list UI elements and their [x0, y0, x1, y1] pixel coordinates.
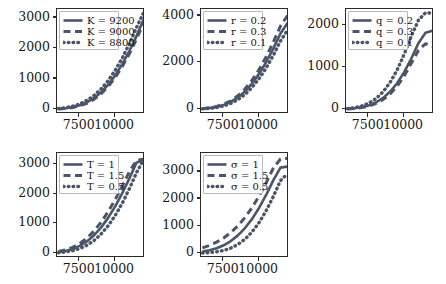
legend-line-swatch-icon: [207, 181, 227, 192]
legend-label: σ = 1: [231, 159, 259, 170]
x-tick-mark: [258, 257, 259, 261]
y-tick-mark: [197, 225, 201, 226]
y-tick-label: 1000: [144, 219, 194, 232]
legend-line-swatch-icon: [207, 159, 227, 170]
legend-item: σ = 1: [207, 159, 258, 170]
subplot-5: 0100020003000750010000σ = 1σ = 1.5σ = 0.…: [0, 0, 446, 284]
legend-item: σ = 1.5: [207, 170, 258, 181]
x-tick-label: 10000: [228, 263, 288, 276]
legend-line-swatch-icon: [207, 170, 227, 181]
legend: σ = 1σ = 1.5σ = 0.5: [203, 155, 263, 194]
y-tick-mark: [197, 197, 201, 198]
x-tick-mark: [222, 257, 223, 261]
legend-label: σ = 1.5: [231, 170, 268, 181]
y-tick-label: 3000: [144, 164, 194, 177]
y-tick-mark: [197, 252, 201, 253]
legend-item: σ = 0.5: [207, 181, 258, 192]
legend-label: σ = 0.5: [231, 181, 268, 192]
figure-panel-grid: 0100020003000750010000K = 9200K = 9000K …: [0, 0, 446, 284]
y-tick-mark: [197, 170, 201, 171]
y-tick-label: 2000: [144, 192, 194, 205]
y-tick-label: 0: [144, 246, 194, 259]
